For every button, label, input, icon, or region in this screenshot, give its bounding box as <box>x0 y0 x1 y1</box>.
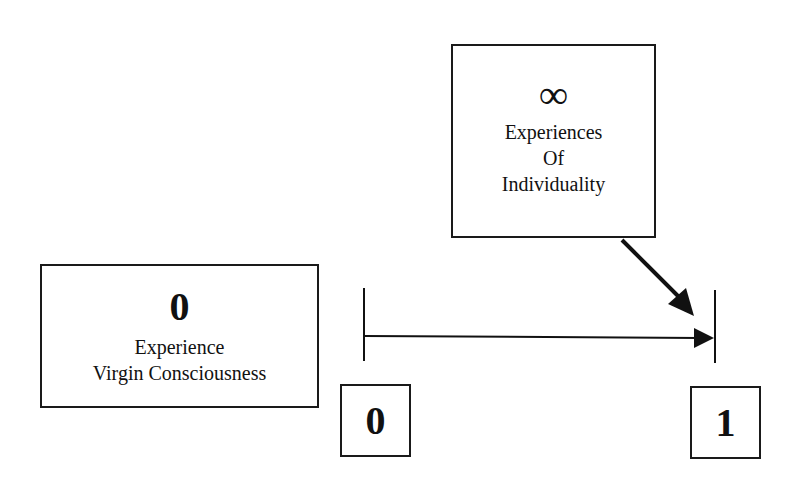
individuality-line-2: Of <box>543 145 564 171</box>
diagonal-arrow <box>622 240 684 302</box>
scale-start-label-box: 0 <box>340 384 411 457</box>
individuality-box: ∞ Experiences Of Individuality <box>451 44 656 238</box>
virgin-consciousness-box: 0 Experience Virgin Consciousness <box>40 264 319 408</box>
individuality-line-1: Experiences <box>505 119 603 145</box>
scale-arrow <box>364 336 700 338</box>
scale-end-label: 1 <box>716 401 736 445</box>
virgin-consciousness-line-1: Experience <box>135 334 225 360</box>
scale-start-label: 0 <box>366 399 386 443</box>
individuality-line-3: Individuality <box>502 171 605 197</box>
zero-symbol: 0 <box>170 286 190 328</box>
infinity-symbol: ∞ <box>539 75 568 115</box>
scale-end-label-box: 1 <box>690 386 761 459</box>
scale-arrowhead <box>694 328 714 348</box>
virgin-consciousness-line-2: Virgin Consciousness <box>93 360 266 386</box>
